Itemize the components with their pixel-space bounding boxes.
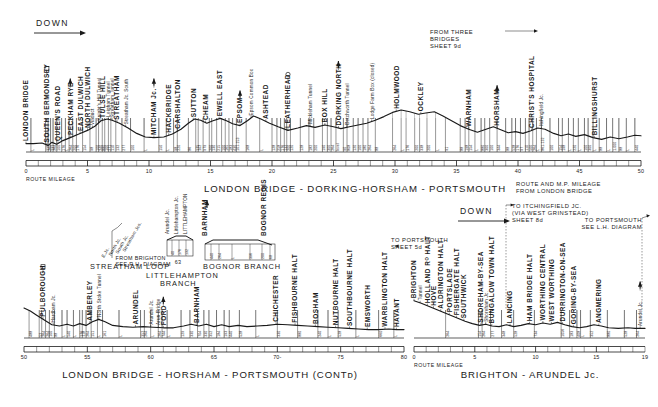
down-arrow-head-icon	[80, 30, 86, 35]
gradient-value: 744	[162, 331, 166, 337]
note-line: SHEET 8d	[512, 217, 543, 223]
gradient-value: 91	[445, 147, 449, 151]
gradient-value: 528	[239, 331, 243, 337]
station-label-west-worthing: WEST WORTHING	[548, 259, 555, 322]
gradient-value: 880	[607, 331, 611, 337]
station-label-nutbourne-halt: NUTBOURNE HALT	[332, 258, 339, 325]
station-label-ashtead: ASHTEAD	[262, 84, 269, 119]
station-label-arundel-jc: Arundel Jc.	[638, 301, 643, 326]
gradient-value: 264	[368, 145, 372, 151]
gradient-value: 180	[363, 145, 367, 151]
gradient-value: 488	[29, 331, 33, 337]
gradient-value: 861-132	[541, 138, 545, 151]
gradient-value: 150	[159, 145, 163, 151]
station-label-goring-by-sea: GORING-BY-SEA	[570, 265, 577, 324]
station-label-itchingfield-jc: Itchingfield Jc.	[539, 94, 544, 126]
gradient-value: L	[356, 335, 360, 337]
station-label-south-bermondsey: SOUTH BERMONDSEY	[43, 63, 50, 142]
route-mileage-label: ROUTE MILEAGE	[414, 362, 463, 368]
gradient-value: 88	[506, 147, 510, 151]
station-label-arundel: ARUNDEL	[132, 289, 139, 324]
gradient-value: 1056	[561, 329, 565, 337]
gradient-value: 128	[300, 145, 304, 151]
station-label-emsworth: EMSWORTH	[364, 285, 371, 327]
gradient-value: 330	[204, 331, 208, 337]
gradient-value: 88	[619, 147, 623, 151]
gradient-value: 176	[406, 145, 410, 151]
note-line: SHEET 9d	[430, 43, 461, 49]
gradient-value: 880	[298, 331, 302, 337]
station-label-epsom-common-box: Epsom Common Box	[249, 68, 254, 115]
gradient-value: 88	[599, 147, 603, 151]
axis-tick-label: 5	[86, 168, 89, 174]
gradient-value: L	[593, 149, 597, 151]
diagram-note: TO PORTSMOUTHSEE L.H. DIAGRAM	[581, 217, 642, 230]
gradient-value: 220	[177, 145, 181, 151]
station-label-warnham: WARNHAM	[465, 89, 472, 127]
gradient-value: L	[581, 335, 585, 337]
station-label-ockley: OCKLEY	[417, 81, 424, 111]
axis-tick-label: 25	[330, 168, 336, 174]
gradient-value: 200	[415, 145, 419, 151]
gradient-value: L	[626, 149, 630, 151]
gradient-value: 154	[469, 145, 473, 151]
gradient-value: 277	[491, 331, 495, 337]
gradient-profile-top: L110264132264100176L26420017615498100240…	[0, 0, 658, 200]
gradient-value: 264	[86, 331, 90, 337]
axis-tick-label: 10	[532, 354, 538, 360]
gradient-value: L	[167, 335, 171, 337]
station-label-hardham-jc: Hardham Jc.	[51, 294, 56, 322]
mileage-axis: 05101520253035404550	[24, 161, 644, 175]
station-label-aldrington-halt: ALDRINGTON HALT	[437, 240, 444, 309]
axis-tick-label: 75	[337, 354, 343, 360]
stations: BRIGHTONTunnelHOLLAND Rᴼ HALTHOVEALDRING…	[410, 236, 643, 329]
gradient-value: 100	[490, 145, 494, 151]
gradient-value: 264	[482, 331, 486, 337]
stations: PULBOROUGHHardham Jc.AMBERLEYNorth Stoke…	[39, 249, 399, 330]
gradient-value: 338	[420, 145, 424, 151]
gradient-value: 86	[188, 147, 192, 151]
gradient-value: 215	[217, 145, 221, 151]
gradient-value: L	[256, 335, 260, 337]
gradient-value: 176	[76, 145, 80, 151]
diagram-note: FROM THREEBRIDGESSHEET 9d	[430, 29, 473, 49]
station-label-fishbourne-halt: FISHBOURNE HALT	[291, 254, 298, 323]
station-label-viaduct: Viaduct	[90, 108, 95, 125]
station-label-box-hill: BOX HILL	[321, 88, 328, 122]
inset-station-label: Arundel Jc.	[165, 209, 170, 234]
station-label-lancing: LANCING	[506, 290, 513, 323]
axis-tick-label: 70-	[273, 354, 281, 360]
gradient-value: 120	[290, 145, 294, 151]
note-line: SEE L.H. DIAGRAM	[581, 224, 642, 230]
gradient-value: 100	[57, 145, 61, 151]
station-label-ewell-east: EWELL EAST	[216, 70, 223, 117]
gradient-profile-bottom-right: 2641542642773485287341056183408L35288052…	[396, 186, 658, 407]
inset-gradient-value: 176	[178, 249, 182, 255]
station-label-queen-s-road: QUEEN'S ROAD	[54, 85, 62, 141]
gradient-value: L	[568, 149, 572, 151]
station-label-southwick: SOUTHWICK	[460, 274, 467, 318]
panel-caption: BRIGHTON - ARUNDEL Jc.	[461, 369, 600, 380]
axis-tick-label: 35	[453, 168, 459, 174]
station-label-cheam: CHEAM	[202, 94, 209, 120]
gradient-value: L	[328, 335, 332, 337]
inset-station-label: Littlehampton Jc.	[174, 196, 179, 234]
station-label-tunnel: Tunnel	[418, 285, 423, 300]
gradient-value: 176	[516, 145, 520, 151]
station-label-ham-bridge-halt: HAM BRIDGE HALT	[526, 254, 533, 322]
axis-tick-label: 5	[473, 354, 476, 360]
gradient-value: L	[436, 149, 440, 151]
gradient-value: 88	[375, 147, 379, 151]
gradient-value: 300	[485, 145, 489, 151]
gradient-value: 110	[111, 145, 115, 151]
down-direction-indicator: DOWN	[458, 206, 510, 224]
station-label-streatham: STREATHAM	[113, 75, 120, 120]
gradient-value: 348	[502, 331, 506, 337]
down-direction-indicator: DOWN	[34, 18, 86, 36]
axis-tick-label: 30	[392, 168, 398, 174]
gradient-value: L	[401, 149, 405, 151]
axis-tick-label: 65	[211, 354, 217, 360]
gradient-value: 128	[272, 145, 276, 151]
gradient-value: 168	[246, 145, 250, 151]
branch-insets: STREATHAM LOOPE.Jc.North Jc.South Jc.Str…	[90, 179, 281, 288]
